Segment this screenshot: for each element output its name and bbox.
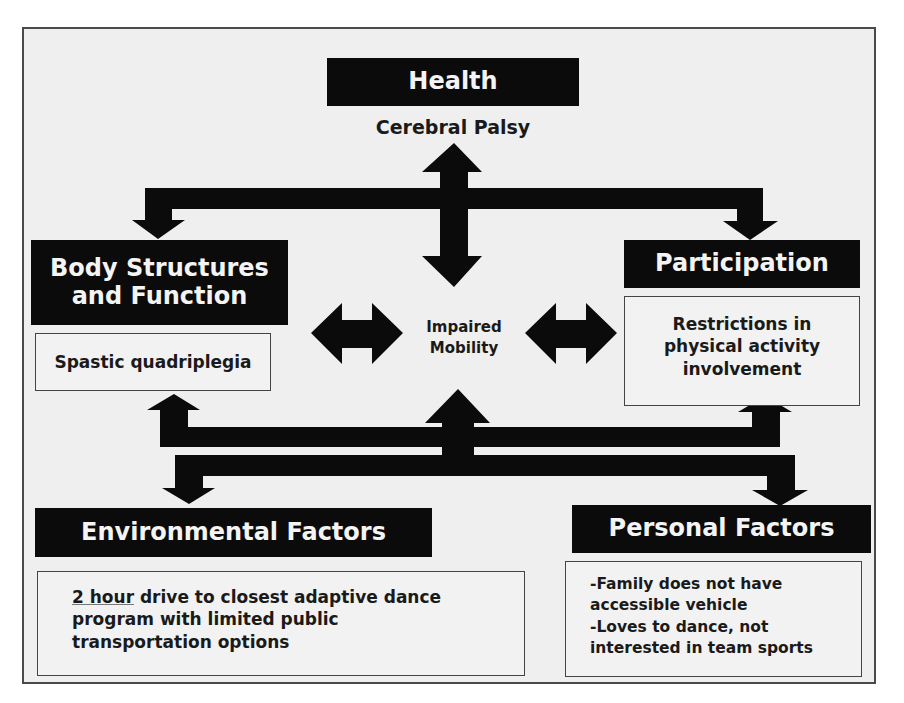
participation-detail-box: Restrictions in physical activity involv… — [624, 296, 860, 406]
environmental-detail-line1: 2 hour drive to closest adaptive dance — [72, 586, 524, 608]
double-arrow-body-mobility — [311, 303, 403, 364]
body-structures-header-line1: Body Structures — [50, 255, 269, 283]
participation-detail-line3: involvement — [625, 358, 859, 380]
body-structures-detail: Spastic quadriplegia — [54, 351, 251, 373]
health-header-label: Health — [408, 68, 497, 96]
personal-detail-line1: -Family does not have — [590, 574, 861, 595]
environmental-factors-header: Environmental Factors — [35, 508, 432, 557]
participation-detail-line2: physical activity — [625, 335, 859, 357]
environmental-detail-line1-rest: drive to closest adaptive dance — [134, 587, 441, 607]
health-condition-text: Cerebral Palsy — [376, 116, 530, 138]
impaired-mobility-line2: Mobility — [405, 338, 523, 359]
personal-factors-header-label: Personal Factors — [609, 515, 835, 543]
body-structures-detail-box: Spastic quadriplegia — [35, 333, 271, 391]
personal-factors-header: Personal Factors — [572, 505, 871, 553]
personal-detail-line4: interested in team sports — [590, 638, 861, 659]
body-structures-header: Body Structures and Function — [31, 240, 288, 325]
participation-header-label: Participation — [655, 250, 829, 278]
body-structures-header-line2: and Function — [72, 283, 248, 311]
environmental-detail-line2: program with limited public — [72, 608, 524, 630]
personal-detail-line3: -Loves to dance, not — [590, 617, 861, 638]
environmental-factors-header-label: Environmental Factors — [81, 519, 386, 547]
personal-detail-line2: accessible vehicle — [590, 595, 861, 616]
health-header: Health — [327, 58, 579, 106]
personal-factors-detail-box: -Family does not have accessible vehicle… — [565, 561, 862, 677]
double-arrow-mobility-participation — [525, 303, 617, 364]
health-condition-label: Cerebral Palsy — [340, 116, 566, 138]
bottom-lower-connector-bar — [175, 455, 795, 476]
environmental-detail-emphasis: 2 hour — [72, 587, 134, 607]
participation-detail-line1: Restrictions in — [625, 313, 859, 335]
participation-header: Participation — [624, 240, 860, 288]
impaired-mobility-label: Impaired Mobility — [405, 317, 523, 359]
environmental-factors-detail-box: 2 hour drive to closest adaptive dance p… — [37, 571, 525, 676]
impaired-mobility-line1: Impaired — [405, 317, 523, 338]
environmental-detail-line3: transportation options — [72, 631, 524, 653]
double-arrow-health-mobility — [422, 143, 482, 287]
